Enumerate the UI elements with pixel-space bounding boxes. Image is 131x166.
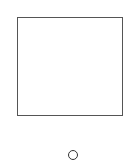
circle-shape xyxy=(68,150,78,160)
square-shape xyxy=(17,17,123,116)
diagram-canvas xyxy=(0,0,131,166)
